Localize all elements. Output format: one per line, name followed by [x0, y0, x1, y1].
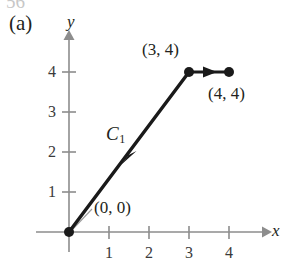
- point-label-0-0: (0, 0): [94, 199, 131, 216]
- point-label-4-4: (4, 4): [208, 85, 245, 102]
- x-axis-label: x: [272, 222, 280, 239]
- x-tick-label-1: 1: [105, 245, 113, 261]
- figure-container: 56 (a) y x: [0, 0, 292, 266]
- x-tick-label-4: 4: [225, 245, 233, 261]
- point-origin: [64, 227, 74, 237]
- curve-label-c1: C1: [106, 124, 125, 145]
- curve-c2-direction-arrowhead: [203, 67, 217, 78]
- curve-label-subscript: 1: [119, 132, 125, 146]
- point-3-4: [184, 67, 194, 77]
- y-tick-label-1: 1: [48, 184, 56, 200]
- point-label-3-4: (3, 4): [142, 41, 179, 58]
- y-tick-label-4: 4: [48, 64, 56, 80]
- y-tick-label-3: 3: [48, 104, 56, 120]
- x-axis-arrowhead: [262, 227, 272, 238]
- y-axis-arrowhead: [64, 30, 75, 40]
- point-4-4: [224, 67, 234, 77]
- x-tick-label-2: 2: [145, 245, 153, 261]
- y-axis-label: y: [67, 13, 75, 30]
- x-tick-label-3: 3: [185, 245, 193, 261]
- curve-label-letter: C: [106, 123, 119, 144]
- y-tick-label-2: 2: [48, 144, 56, 160]
